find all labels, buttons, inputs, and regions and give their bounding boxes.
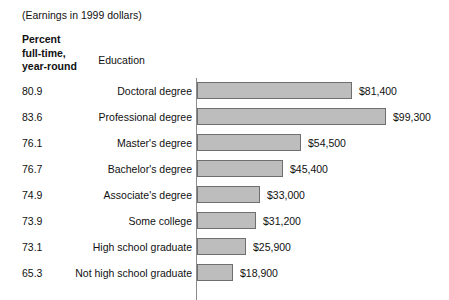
education-column-header: Education: [0, 54, 197, 66]
table-row: 83.6Professional degree$99,300: [0, 104, 449, 130]
table-row: 74.9Associate's degree$33,000: [0, 182, 449, 208]
percent-value: 76.1: [22, 130, 42, 156]
education-category-label: Some college: [55, 208, 192, 234]
bar-value-label: $31,200: [263, 208, 301, 234]
education-category-label: Professional degree: [55, 104, 192, 130]
bar-value-label: $25,900: [253, 234, 291, 260]
percent-value: 74.9: [22, 182, 42, 208]
bar: [197, 212, 256, 229]
percent-value: 80.9: [22, 78, 42, 104]
education-category-label: Doctoral degree: [55, 78, 192, 104]
bar-value-label: $81,400: [359, 78, 397, 104]
bar-value-label: $54,500: [308, 130, 346, 156]
percent-value: 76.7: [22, 156, 42, 182]
table-row: 80.9Doctoral degree$81,400: [0, 78, 449, 104]
education-category-label: Associate's degree: [55, 182, 192, 208]
table-row: 76.1Master's degree$54,500: [0, 130, 449, 156]
percent-value: 73.1: [22, 234, 42, 260]
bar-value-label: $45,400: [290, 156, 328, 182]
bar: [197, 82, 352, 99]
bar-value-label: $18,900: [240, 260, 278, 286]
education-category-label: Master's degree: [55, 130, 192, 156]
bar: [197, 134, 301, 151]
education-category-label: Bachelor's degree: [55, 156, 192, 182]
bar: [197, 160, 283, 177]
education-column-header-label: Education: [98, 54, 145, 66]
table-row: 73.1High school graduate$25,900: [0, 234, 449, 260]
bar-value-label: $33,000: [267, 182, 305, 208]
bar: [197, 264, 233, 281]
table-row: 73.9Some college$31,200: [0, 208, 449, 234]
percent-value: 83.6: [22, 104, 42, 130]
earnings-by-education-chart: (Earnings in 1999 dollars) Percent full-…: [0, 0, 449, 300]
percent-value: 73.9: [22, 208, 42, 234]
table-row: 65.3Not high school graduate$18,900: [0, 260, 449, 286]
bar: [197, 108, 386, 125]
chart-title: (Earnings in 1999 dollars): [22, 9, 142, 21]
bar: [197, 186, 260, 203]
education-category-label: High school graduate: [55, 234, 192, 260]
education-category-label: Not high school graduate: [55, 260, 192, 286]
percent-header-line-1: Percent: [22, 33, 77, 47]
table-row: 76.7Bachelor's degree$45,400: [0, 156, 449, 182]
bar-value-label: $99,300: [393, 104, 431, 130]
bar: [197, 238, 246, 255]
percent-value: 65.3: [22, 260, 42, 286]
